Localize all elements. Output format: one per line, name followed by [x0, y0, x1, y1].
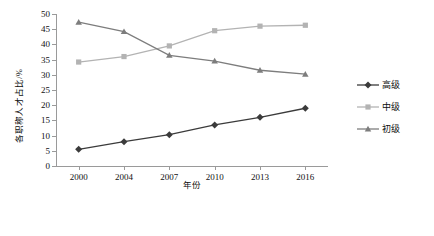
data-point-marker — [120, 138, 127, 145]
series-高级 — [75, 105, 309, 153]
data-point-marker — [365, 104, 370, 109]
y-tick-mark — [52, 166, 56, 167]
x-axis-line — [56, 166, 328, 167]
data-point-marker — [76, 59, 81, 64]
x-axis-title: 年份 — [56, 178, 328, 190]
y-tick-label: 50 — [41, 9, 50, 19]
series-line — [79, 108, 306, 149]
legend-swatch-diamond-icon — [357, 80, 379, 90]
x-tick-mark — [79, 166, 80, 170]
data-point-marker — [121, 54, 126, 59]
data-point-marker — [166, 52, 173, 58]
legend-label: 初级 — [382, 122, 400, 135]
x-tick-mark — [124, 166, 125, 170]
y-tick-label: 15 — [41, 115, 50, 125]
y-tick-label: 10 — [41, 131, 50, 141]
y-tick-label: 35 — [41, 55, 50, 65]
y-tick-label: 20 — [41, 100, 50, 110]
data-point-marker — [364, 81, 371, 88]
chart-legend: 高级中级初级 — [357, 78, 400, 135]
legend-item-初级[interactable]: 初级 — [357, 122, 400, 135]
data-point-marker — [257, 24, 262, 29]
y-tick-label: 25 — [41, 85, 50, 95]
series-layer — [56, 14, 328, 166]
series-初级 — [75, 19, 308, 77]
series-line — [79, 25, 306, 62]
legend-swatch-square-icon — [357, 102, 379, 112]
y-axis-title: 各职称人才占比/% — [12, 36, 24, 176]
legend-label: 中级 — [382, 100, 400, 113]
chart-container: 各职称人才占比/% 05101520253035404550 200020042… — [0, 0, 434, 236]
data-point-marker — [212, 28, 217, 33]
y-tick-label: 0 — [46, 161, 51, 171]
data-point-marker — [303, 23, 308, 28]
series-line — [79, 22, 306, 74]
x-tick-mark — [260, 166, 261, 170]
plot-area: 05101520253035404550 2000200420072010201… — [56, 14, 328, 166]
y-tick-label: 30 — [41, 70, 50, 80]
legend-item-高级[interactable]: 高级 — [357, 78, 400, 91]
x-tick-mark — [215, 166, 216, 170]
data-point-marker — [75, 146, 82, 153]
legend-swatch-triangle-icon — [357, 124, 379, 134]
x-tick-mark — [305, 166, 306, 170]
data-point-marker — [167, 43, 172, 48]
data-point-marker — [256, 114, 263, 121]
legend-item-中级[interactable]: 中级 — [357, 100, 400, 113]
data-point-marker — [75, 19, 82, 25]
data-point-marker — [302, 105, 309, 112]
y-tick-label: 5 — [46, 146, 51, 156]
y-tick-label: 45 — [41, 24, 50, 34]
data-point-marker — [211, 121, 218, 128]
data-point-marker — [166, 131, 173, 138]
x-tick-mark — [169, 166, 170, 170]
legend-label: 高级 — [382, 78, 400, 91]
y-tick-label: 40 — [41, 39, 50, 49]
